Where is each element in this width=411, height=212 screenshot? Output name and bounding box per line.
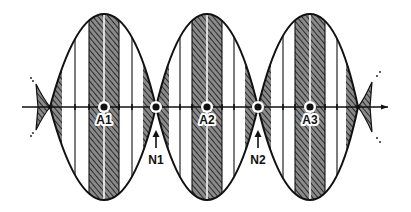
node-n2-dot (254, 103, 261, 110)
axis-arrow-icon (381, 105, 388, 110)
antinode-a1-dot (100, 103, 107, 110)
label-n1: N1 (148, 153, 164, 167)
antinode-a3-dot (306, 103, 313, 110)
standing-wave-diagram: A1 A1 A2 A2 A3 A3 N1 N2 (0, 0, 411, 212)
label-n2: N2 (250, 153, 266, 167)
antinode-a2-dot (203, 103, 210, 110)
label-a1: A1 (96, 113, 112, 127)
label-a3: A3 (302, 113, 318, 127)
node-right-end-dot (356, 105, 360, 109)
node-n1-dot (152, 103, 159, 110)
antinode-labels: A1 A1 A2 A2 A3 A3 (96, 113, 318, 127)
label-a2: A2 (199, 113, 215, 127)
node-left-end-dot (48, 105, 52, 109)
